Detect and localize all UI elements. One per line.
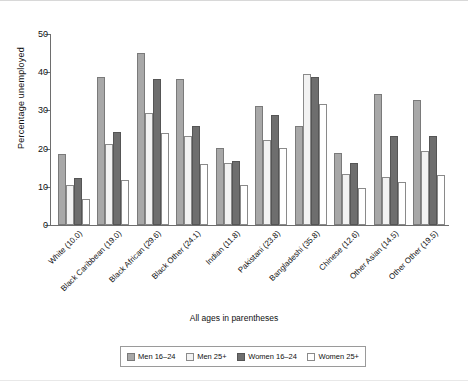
- bar: [374, 94, 382, 225]
- bar: [255, 106, 263, 225]
- bar: [121, 180, 129, 225]
- bar: [192, 126, 200, 225]
- x-tick-label: White (10.0): [47, 229, 84, 266]
- bar-group: [133, 34, 173, 225]
- legend-label: Men 25+: [197, 352, 226, 361]
- y-axis-title: Percentage unemployed: [16, 13, 26, 183]
- y-tick-label: 20: [38, 144, 48, 153]
- legend-swatch-icon: [127, 353, 135, 361]
- plot-area: 01020304050: [54, 34, 449, 225]
- y-tick-label: 40: [38, 68, 48, 77]
- bar: [358, 188, 366, 225]
- legend-item: Men 25+: [186, 352, 226, 361]
- bar-group: [94, 34, 134, 225]
- bar: [161, 133, 169, 225]
- bar-group: [331, 34, 371, 225]
- bar-group: [54, 34, 94, 225]
- bar: [153, 79, 161, 225]
- legend-swatch-icon: [237, 353, 245, 361]
- bar: [82, 199, 90, 225]
- bar: [303, 74, 311, 225]
- bar: [398, 182, 406, 225]
- bar-group: [291, 34, 331, 225]
- bar: [224, 163, 232, 225]
- chart-legend: Men 16–24Men 25+Women 16–24Women 25+: [120, 346, 366, 367]
- legend-swatch-icon: [186, 353, 194, 361]
- bar: [279, 148, 287, 225]
- bar: [105, 144, 113, 225]
- y-tick-label: 30: [38, 106, 48, 115]
- bar: [350, 163, 358, 225]
- bar: [216, 148, 224, 225]
- bar: [295, 126, 303, 225]
- bar-group: [173, 34, 213, 225]
- legend-item: Women 25+: [307, 352, 359, 361]
- bar: [74, 178, 82, 225]
- bar: [342, 174, 350, 225]
- bar: [145, 113, 153, 225]
- bar: [429, 136, 437, 225]
- legend-item: Women 16–24: [237, 352, 297, 361]
- bar: [413, 100, 421, 225]
- bar-groups: [54, 34, 449, 225]
- bar-group: [212, 34, 252, 225]
- y-tick-label: 10: [38, 182, 48, 191]
- y-tick-label: 0: [43, 221, 48, 230]
- bar: [271, 115, 279, 225]
- bar: [113, 132, 121, 225]
- y-tick-label: 50: [38, 30, 48, 39]
- bar: [200, 164, 208, 225]
- bar: [176, 79, 184, 225]
- bar: [263, 140, 271, 225]
- y-axis-line: [50, 34, 51, 226]
- chart-figure: Percentage unemployed 01020304050 White …: [0, 0, 468, 381]
- legend-label: Women 16–24: [248, 352, 297, 361]
- legend-item: Men 16–24: [127, 352, 176, 361]
- x-axis-title: All ages in parentheses: [0, 313, 468, 323]
- bar: [58, 154, 66, 225]
- legend-swatch-icon: [307, 353, 315, 361]
- x-tick-label: Chinese (12.6): [317, 229, 360, 272]
- x-axis-line: [50, 225, 449, 226]
- bar: [66, 185, 74, 225]
- bar: [421, 151, 429, 225]
- bar-group: [252, 34, 292, 225]
- bar: [232, 161, 240, 225]
- bar: [437, 175, 445, 225]
- legend-label: Women 25+: [318, 352, 359, 361]
- bar: [319, 104, 327, 225]
- bar-group: [410, 34, 450, 225]
- bar: [311, 77, 319, 225]
- legend-label: Men 16–24: [138, 352, 176, 361]
- bar: [390, 136, 398, 225]
- bar: [137, 53, 145, 225]
- bar: [184, 136, 192, 225]
- bar: [382, 177, 390, 225]
- x-tick-label: Indian (11.8): [204, 229, 242, 267]
- bar-group: [370, 34, 410, 225]
- x-axis-tick-labels: White (10.0)Black Caribbean (19.0)Black …: [54, 227, 449, 307]
- bar: [97, 77, 105, 225]
- bar: [240, 185, 248, 225]
- bar: [334, 153, 342, 225]
